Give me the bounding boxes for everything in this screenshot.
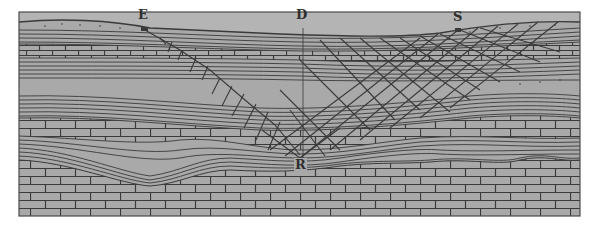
label-e: E bbox=[138, 8, 148, 21]
geological-cross-section: E D S R bbox=[0, 0, 597, 226]
marker-s bbox=[455, 28, 461, 32]
label-s: S bbox=[453, 10, 462, 23]
marker-e bbox=[141, 27, 148, 31]
label-d: D bbox=[296, 8, 307, 21]
label-r: R bbox=[294, 158, 307, 171]
